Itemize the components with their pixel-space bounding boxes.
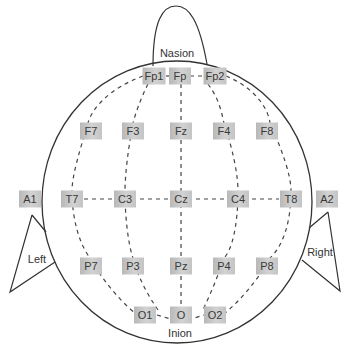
electrode-fz: Fz [170, 123, 192, 140]
electrode-f4: F4 [213, 123, 235, 140]
electrode-p4: P4 [213, 258, 235, 275]
electrode-o: O [170, 307, 192, 324]
inion-label: Inion [168, 327, 192, 339]
right-label: Right [307, 246, 333, 258]
eeg-electrode-diagram: Nasion Inion Left Right Fp1 Fp Fp2 F7 F3… [0, 0, 349, 359]
electrode-fp2: Fp2 [204, 68, 227, 85]
electrode-cz: Cz [170, 191, 192, 208]
electrode-fp: Fp [169, 68, 191, 85]
electrode-f8: F8 [256, 123, 278, 140]
electrode-c4: C4 [227, 191, 249, 208]
electrode-a1: A1 [19, 191, 41, 208]
electrode-p8: P8 [256, 258, 278, 275]
electrode-o1: O1 [134, 307, 156, 324]
electrode-f3: F3 [122, 123, 144, 140]
electrode-c3: C3 [114, 191, 136, 208]
electrode-pz: Pz [170, 258, 192, 275]
electrode-t7: T7 [61, 191, 83, 208]
electrode-f7: F7 [80, 123, 102, 140]
electrode-t8: T8 [280, 191, 302, 208]
electrode-o2: O2 [204, 307, 226, 324]
electrode-a2: A2 [316, 191, 338, 208]
electrode-p7: P7 [80, 258, 102, 275]
left-label: Left [28, 253, 46, 265]
electrode-fp1: Fp1 [143, 68, 166, 85]
electrode-p3: P3 [122, 258, 144, 275]
nasion-label: Nasion [160, 47, 194, 59]
